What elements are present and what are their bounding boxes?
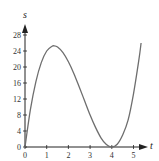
chart: 0123450481216202428 ts (0, 0, 159, 161)
y-tick-label: 20 (13, 63, 21, 72)
y-tick-label: 8 (17, 111, 21, 120)
series-line-s-of-t (25, 43, 141, 147)
y-tick-label: 0 (17, 143, 21, 152)
y-axis-arrow (22, 24, 28, 33)
x-tick-label: 4 (110, 151, 114, 160)
series (25, 43, 141, 147)
x-tick-label: 5 (132, 151, 136, 160)
y-tick-label: 12 (13, 95, 21, 104)
x-tick-label: 3 (88, 151, 92, 160)
x-axis-arrow (139, 144, 148, 150)
y-tick-label: 28 (13, 31, 21, 40)
axes (22, 24, 148, 150)
y-tick-label: 24 (13, 47, 21, 56)
x-axis-label: t (150, 140, 153, 151)
x-tick-label: 2 (66, 151, 70, 160)
ticks: 0123450481216202428 (13, 31, 136, 160)
y-tick-label: 4 (17, 127, 21, 136)
x-tick-label: 0 (23, 151, 27, 160)
x-tick-label: 1 (45, 151, 49, 160)
y-tick-label: 16 (13, 79, 21, 88)
axis-labels: ts (23, 9, 153, 151)
y-axis-label: s (23, 9, 27, 20)
